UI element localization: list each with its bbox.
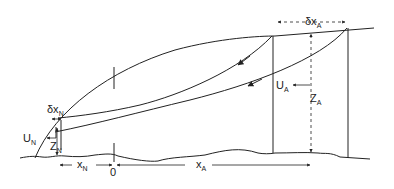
diagram-canvas: δxA ZA UA δxN UN ZN 0 xN xA <box>0 0 394 189</box>
svg-text:xN: xN <box>77 158 88 172</box>
U-N-label: U <box>23 132 31 144</box>
delta-x-A-subscript: A <box>317 22 322 29</box>
delta-x-N-label: δx <box>47 103 59 115</box>
svg-text:δxA: δxA <box>305 15 322 29</box>
svg-text:δxN: δxN <box>47 103 64 117</box>
origin-label: 0 <box>110 166 116 178</box>
svg-text:ZN: ZN <box>50 140 62 154</box>
x-A-subscript: A <box>202 165 207 172</box>
svg-text:xA: xA <box>196 158 207 172</box>
svg-text:ZA: ZA <box>310 92 322 106</box>
ground-line <box>20 150 370 162</box>
svg-text:UA: UA <box>276 79 289 93</box>
U-A-label: U <box>276 79 284 91</box>
Z-A-subscript: A <box>317 99 322 106</box>
Z-N-subscript: N <box>57 147 62 154</box>
delta-x-N-subscript: N <box>59 110 64 117</box>
U-A-subscript: A <box>284 86 289 93</box>
delta-x-A-label: δx <box>305 15 317 27</box>
svg-text:UN: UN <box>23 132 36 146</box>
outer-boundary-curve <box>35 28 374 158</box>
U-N-subscript: N <box>31 139 36 146</box>
trajectory-upper-arrow <box>238 56 250 65</box>
x-N-subscript: N <box>83 165 88 172</box>
